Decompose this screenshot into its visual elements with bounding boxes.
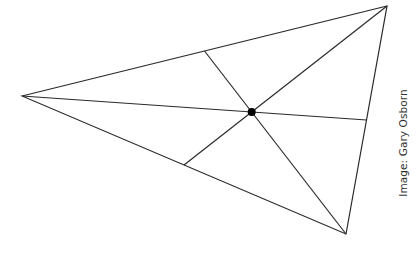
median-from-b <box>184 6 387 165</box>
median-from-c <box>205 51 347 234</box>
triangle-outline <box>22 6 387 234</box>
image-credit: Image: Gary Osborn <box>397 89 409 197</box>
centroid-point <box>248 108 256 116</box>
median-from-a <box>22 96 367 120</box>
triangle-medians-diagram <box>0 0 416 262</box>
